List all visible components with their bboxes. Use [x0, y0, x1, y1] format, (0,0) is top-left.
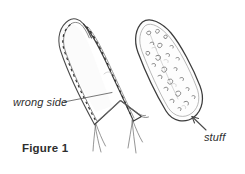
left-cone-hem-tail: [142, 117, 149, 118]
figure-illustration: wrong side stuff Figure 1: [0, 0, 245, 174]
stuff-label: stuff: [204, 132, 225, 143]
stuffed-cone: [136, 20, 203, 121]
left-cone-hem-edge-right: [121, 101, 146, 116]
left-cone-threads-right: [128, 120, 143, 153]
left-cone-shading: [60, 22, 112, 112]
wrong-side-label: wrong side: [13, 97, 67, 108]
left-cone-threads-left: [93, 124, 106, 152]
figure-caption: Figure 1: [22, 143, 68, 155]
stuff-arrow: [192, 117, 206, 131]
